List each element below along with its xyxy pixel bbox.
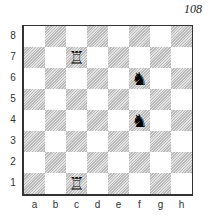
square-d4[interactable] bbox=[87, 110, 108, 131]
square-h2[interactable] bbox=[171, 152, 192, 173]
file-label: e bbox=[108, 199, 129, 210]
black-knight-icon[interactable]: ♞ bbox=[131, 70, 147, 88]
square-f7[interactable] bbox=[129, 47, 150, 68]
square-b3[interactable] bbox=[45, 131, 66, 152]
square-g4[interactable] bbox=[150, 110, 171, 131]
square-h1[interactable] bbox=[171, 173, 192, 194]
square-h4[interactable] bbox=[171, 110, 192, 131]
square-g1[interactable] bbox=[150, 173, 171, 194]
square-b2[interactable] bbox=[45, 152, 66, 173]
rank-label: 8 bbox=[8, 30, 18, 41]
square-d8[interactable] bbox=[87, 26, 108, 47]
square-f1[interactable] bbox=[129, 173, 150, 194]
square-a7[interactable] bbox=[24, 47, 45, 68]
square-e4[interactable] bbox=[108, 110, 129, 131]
square-e1[interactable] bbox=[108, 173, 129, 194]
square-g8[interactable] bbox=[150, 26, 171, 47]
square-f5[interactable] bbox=[129, 89, 150, 110]
square-d5[interactable] bbox=[87, 89, 108, 110]
square-c2[interactable] bbox=[66, 152, 87, 173]
square-c7[interactable]: ♖ bbox=[66, 47, 87, 68]
square-e7[interactable] bbox=[108, 47, 129, 68]
square-h7[interactable] bbox=[171, 47, 192, 68]
square-g5[interactable] bbox=[150, 89, 171, 110]
square-d7[interactable] bbox=[87, 47, 108, 68]
square-b5[interactable] bbox=[45, 89, 66, 110]
square-a3[interactable] bbox=[24, 131, 45, 152]
square-h6[interactable] bbox=[171, 68, 192, 89]
white-rook-icon[interactable]: ♖ bbox=[68, 175, 84, 193]
square-b7[interactable] bbox=[45, 47, 66, 68]
file-label: b bbox=[45, 199, 66, 210]
square-c1[interactable]: ♖ bbox=[66, 173, 87, 194]
square-g2[interactable] bbox=[150, 152, 171, 173]
square-b1[interactable] bbox=[45, 173, 66, 194]
rank-label: 1 bbox=[8, 177, 18, 188]
diagram-number: 108 bbox=[184, 2, 202, 17]
square-a2[interactable] bbox=[24, 152, 45, 173]
square-h8[interactable] bbox=[171, 26, 192, 47]
square-d1[interactable] bbox=[87, 173, 108, 194]
square-a8[interactable] bbox=[24, 26, 45, 47]
square-e5[interactable] bbox=[108, 89, 129, 110]
square-e3[interactable] bbox=[108, 131, 129, 152]
square-a5[interactable] bbox=[24, 89, 45, 110]
square-f4[interactable]: ♞ bbox=[129, 110, 150, 131]
square-h5[interactable] bbox=[171, 89, 192, 110]
square-c5[interactable] bbox=[66, 89, 87, 110]
square-e8[interactable] bbox=[108, 26, 129, 47]
rank-label: 6 bbox=[8, 72, 18, 83]
square-c4[interactable] bbox=[66, 110, 87, 131]
file-label: h bbox=[171, 199, 192, 210]
rank-label: 4 bbox=[8, 114, 18, 125]
square-b8[interactable] bbox=[45, 26, 66, 47]
file-label: d bbox=[87, 199, 108, 210]
square-a6[interactable] bbox=[24, 68, 45, 89]
square-c6[interactable] bbox=[66, 68, 87, 89]
square-h3[interactable] bbox=[171, 131, 192, 152]
square-d6[interactable] bbox=[87, 68, 108, 89]
square-c8[interactable] bbox=[66, 26, 87, 47]
square-b4[interactable] bbox=[45, 110, 66, 131]
square-d2[interactable] bbox=[87, 152, 108, 173]
square-a4[interactable] bbox=[24, 110, 45, 131]
square-g7[interactable] bbox=[150, 47, 171, 68]
file-label: c bbox=[66, 199, 87, 210]
square-d3[interactable] bbox=[87, 131, 108, 152]
square-e6[interactable] bbox=[108, 68, 129, 89]
file-label: f bbox=[129, 199, 150, 210]
chess-board: ♖♞♞♖ bbox=[22, 25, 193, 196]
file-label: g bbox=[150, 199, 171, 210]
square-g3[interactable] bbox=[150, 131, 171, 152]
file-label: a bbox=[24, 199, 45, 210]
rank-label: 5 bbox=[8, 93, 18, 104]
square-g6[interactable] bbox=[150, 68, 171, 89]
square-f3[interactable] bbox=[129, 131, 150, 152]
rank-label: 3 bbox=[8, 135, 18, 146]
white-rook-icon[interactable]: ♖ bbox=[68, 49, 84, 67]
square-e2[interactable] bbox=[108, 152, 129, 173]
square-b6[interactable] bbox=[45, 68, 66, 89]
rank-label: 7 bbox=[8, 51, 18, 62]
square-f6[interactable]: ♞ bbox=[129, 68, 150, 89]
square-f8[interactable] bbox=[129, 26, 150, 47]
square-c3[interactable] bbox=[66, 131, 87, 152]
rank-label: 2 bbox=[8, 156, 18, 167]
black-knight-icon[interactable]: ♞ bbox=[131, 112, 147, 130]
square-f2[interactable] bbox=[129, 152, 150, 173]
square-a1[interactable] bbox=[24, 173, 45, 194]
